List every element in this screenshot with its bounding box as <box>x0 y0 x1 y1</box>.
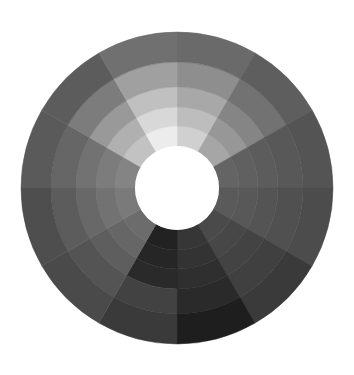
color-wheel <box>0 0 354 375</box>
center-hole <box>135 146 219 230</box>
figure-canvas <box>0 0 354 375</box>
